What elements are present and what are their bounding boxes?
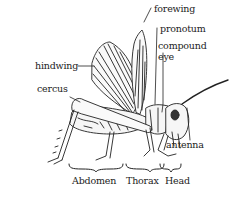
label-pronotum: pronotum [160, 24, 206, 34]
label-antenna: antenna [166, 140, 204, 150]
region-thorax: Thorax [126, 176, 159, 186]
antenna-shape [182, 80, 228, 104]
label-cercus: cercus [37, 84, 68, 94]
grasshopper-anatomy-diagram: forewing pronotum compound eye hindwing … [0, 0, 252, 203]
label-compound-eye-line2: eye [158, 52, 174, 62]
region-braces [69, 164, 181, 172]
region-abdomen: Abdomen [72, 176, 116, 186]
label-hindwing: hindwing [35, 61, 78, 71]
forewing-shape [132, 30, 147, 114]
region-head: Head [165, 176, 190, 186]
grasshopper-illustration [0, 0, 252, 203]
hindwing-shape [92, 42, 138, 114]
label-forewing: forewing [154, 4, 195, 14]
label-compound-eye-line1: compound [158, 41, 207, 51]
